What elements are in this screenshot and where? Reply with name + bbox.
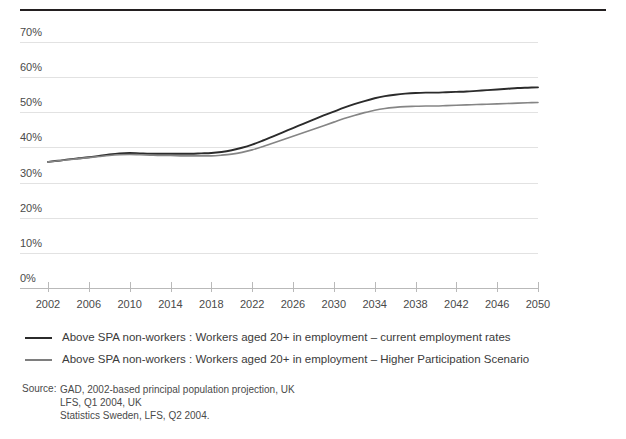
x-axis-tick-label: 2038: [403, 298, 427, 310]
x-axis-tick-label: 2046: [485, 298, 509, 310]
line-chart: 70%60%50%40%30%20%10%0%20022006201020142…: [0, 0, 626, 330]
y-axis-tick-label: 50%: [20, 96, 42, 108]
source-line: Statistics Sweden, LFS, Q2 2004.: [60, 409, 295, 422]
legend-label-series-1: Above SPA non-workers : Workers aged 20+…: [62, 332, 511, 344]
x-axis-tick-label: 2034: [362, 298, 386, 310]
source-note: Source: GAD, 2002-based principal popula…: [22, 383, 295, 422]
x-axis-tick-label: 2030: [322, 298, 346, 310]
legend-swatch-series-1: [25, 337, 52, 339]
source-line: GAD, 2002-based principal population pro…: [60, 383, 295, 396]
y-axis-tick-label: 30%: [20, 167, 42, 179]
x-axis-tick-label: 2018: [199, 298, 223, 310]
x-axis-tick-label: 2026: [281, 298, 305, 310]
x-axis-tick-label: 2022: [240, 298, 264, 310]
source-lines: GAD, 2002-based principal population pro…: [60, 383, 295, 422]
y-axis-tick-label: 70%: [20, 26, 42, 38]
source-line: LFS, Q1 2004, UK: [60, 396, 295, 409]
y-axis-tick-label: 20%: [20, 202, 42, 214]
y-axis-tick-label: 10%: [20, 237, 42, 249]
y-axis-tick-label: 0%: [20, 272, 36, 284]
legend-item-current-employment-rates[interactable]: Above SPA non-workers : Workers aged 20+…: [0, 327, 626, 349]
x-axis-tick-label: 2006: [77, 298, 101, 310]
series-line-1: [48, 87, 538, 162]
legend-item-higher-participation-scenario[interactable]: Above SPA non-workers : Workers aged 20+…: [0, 349, 626, 371]
plot-area: 70%60%50%40%30%20%10%0%20022006201020142…: [0, 0, 626, 330]
legend-label-series-2: Above SPA non-workers : Workers aged 20+…: [62, 354, 529, 366]
chart-figure: 70%60%50%40%30%20%10%0%20022006201020142…: [0, 0, 626, 439]
y-axis-tick-label: 60%: [20, 61, 42, 73]
x-axis-tick-label: 2050: [526, 298, 550, 310]
source-label: Source:: [22, 383, 60, 394]
x-axis-tick-label: 2010: [117, 298, 141, 310]
y-axis-tick-label: 40%: [20, 131, 42, 143]
chart-legend: Above SPA non-workers : Workers aged 20+…: [0, 327, 626, 371]
legend-swatch-series-2: [25, 359, 52, 361]
x-axis-tick-label: 2042: [444, 298, 468, 310]
x-axis-tick-label: 2014: [158, 298, 182, 310]
x-axis-tick-label: 2002: [36, 298, 60, 310]
